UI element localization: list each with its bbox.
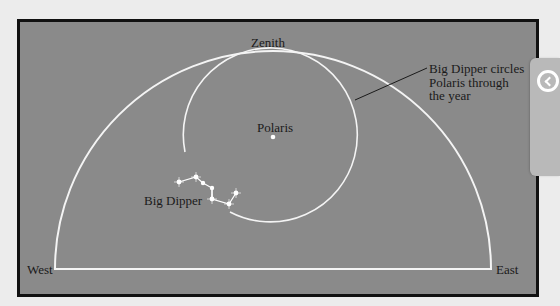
- polaris-label: Polaris: [257, 121, 293, 134]
- annotation-line-1: Big Dipper circles: [429, 62, 524, 76]
- west-label: West: [27, 263, 53, 276]
- annotation-line-3: the year: [429, 89, 524, 103]
- zenith-label: Zenith: [251, 36, 285, 49]
- east-label: East: [496, 263, 518, 276]
- chevron-left-circle-icon[interactable]: [537, 70, 559, 92]
- annotation-line-2: Polaris through: [429, 76, 524, 90]
- sky-dome-arc: [55, 51, 491, 269]
- polaris-star: [271, 135, 276, 140]
- annotation-text: Big Dipper circles Polaris through the y…: [429, 62, 524, 103]
- big-dipper-label: Big Dipper: [144, 194, 202, 207]
